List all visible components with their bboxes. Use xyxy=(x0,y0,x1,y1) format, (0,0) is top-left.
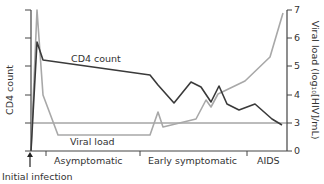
tick-7: 7 xyxy=(294,4,300,15)
phase-early-symptomatic: Early symptomatic xyxy=(148,155,237,166)
right-axis: 7 6 5 4 3 0 xyxy=(287,4,300,156)
left-axis xyxy=(25,10,31,151)
phase-asymptomatic: Asymptomatic xyxy=(54,155,123,166)
left-axis-title: CD4 count xyxy=(4,65,15,115)
right-axis-title: Viral load (log₁₀[HIV]/mL) xyxy=(310,21,321,140)
tick-0: 0 xyxy=(294,145,300,156)
initial-infection-arrow-icon xyxy=(27,152,33,167)
tick-6: 6 xyxy=(294,32,300,43)
tick-4: 4 xyxy=(294,89,300,100)
viral-load-curve-label: Viral load xyxy=(70,136,115,147)
cd4-curve-label: CD4 count xyxy=(71,53,121,64)
hiv-progression-chart: 7 6 5 4 3 0 CD4 count Viral load CD4 cou… xyxy=(0,0,324,184)
tick-5: 5 xyxy=(294,60,300,71)
phase-aids: AIDS xyxy=(257,155,280,166)
initial-infection-label: Initial infection xyxy=(2,171,73,182)
tick-3: 3 xyxy=(294,117,300,128)
viral-load-line xyxy=(31,10,283,151)
